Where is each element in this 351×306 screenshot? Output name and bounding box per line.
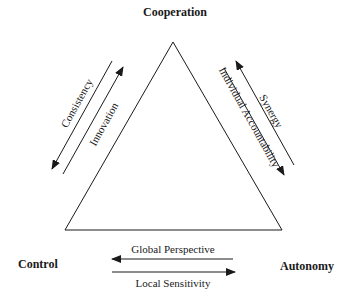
consistency-label: Consistency bbox=[58, 76, 95, 129]
tension-triangle-diagram: Cooperation Control Autonomy Consistency… bbox=[0, 0, 351, 306]
vertex-label-autonomy: Autonomy bbox=[280, 259, 334, 273]
vertex-label-control: Control bbox=[18, 257, 58, 271]
diagram-canvas: Cooperation Control Autonomy Consistency… bbox=[0, 0, 351, 306]
global-perspective-label: Global Perspective bbox=[131, 243, 215, 255]
local-sensitivity-label: Local Sensitivity bbox=[136, 277, 211, 289]
innovation-label: Innovation bbox=[87, 100, 121, 148]
vertex-label-cooperation: Cooperation bbox=[143, 5, 207, 19]
